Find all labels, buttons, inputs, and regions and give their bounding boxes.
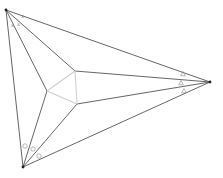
vertex-c [22,166,25,169]
x-angle-mark-icon: x [17,21,20,27]
morley-triangle [47,71,77,104]
morley-side-12 [47,71,75,91]
outer-triangle [6,10,210,167]
diagram-canvas: xxx [0,0,223,178]
vertices [5,9,212,169]
trisector-a1 [6,10,75,71]
morley-side-31 [75,71,77,104]
x-angle-mark-icon: x [11,22,14,28]
vertex-a [5,9,8,12]
angle-marks: xxx [11,13,186,158]
trisector-b1 [75,71,210,82]
circle-angle-mark-icon [31,147,35,151]
trisector-c1 [23,91,47,167]
circle-angle-mark-icon [23,144,27,148]
edge-ca [6,10,23,167]
triangle-angle-mark-icon [182,89,187,93]
trisector-b2 [77,82,210,104]
x-angle-mark-icon: x [21,13,24,19]
vertex-b [209,81,212,84]
triangle-angle-mark-icon [179,81,184,85]
trisector-c2 [23,104,77,167]
morley-diagram: xxx [0,0,223,178]
angle-trisectors [6,10,210,167]
circle-angle-mark-icon [37,154,41,158]
morley-side-23 [47,91,77,104]
edge-bc [23,82,210,167]
